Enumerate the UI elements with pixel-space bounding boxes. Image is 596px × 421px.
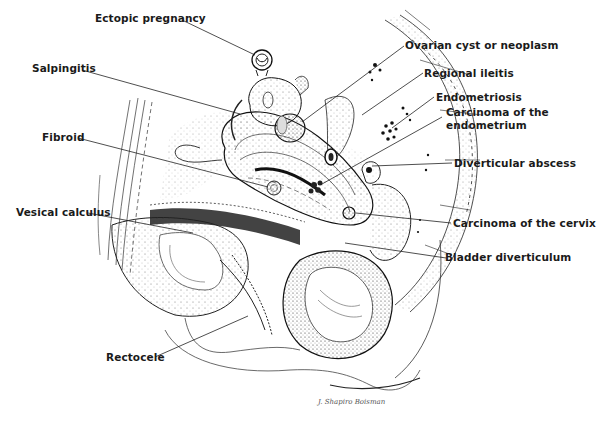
label-carcinoma-endometrium-line2: endometrium — [446, 119, 527, 131]
label-carcinoma-endometrium-line1: Carcinoma of the — [446, 106, 549, 118]
label-ectopic-pregnancy: Ectopic pregnancy — [95, 12, 206, 24]
rectum — [283, 251, 392, 359]
leader-salpingitis — [82, 70, 240, 114]
label-vesical-calculus: Vesical calculus — [16, 206, 111, 218]
label-fibroid: Fibroid — [42, 131, 85, 143]
label-regional-ileitis: Regional ileitis — [424, 67, 514, 79]
label-rectocele: Rectocele — [106, 351, 165, 363]
leader-endometriosis — [392, 97, 434, 128]
label-salpingitis: Salpingitis — [32, 62, 96, 74]
cervical-carcinoma-mass — [343, 207, 355, 219]
label-bladder-diverticulum: Bladder diverticulum — [445, 251, 571, 263]
endometriosis-implants — [381, 121, 397, 141]
leader-ectopic-pregnancy — [182, 20, 255, 55]
bladder — [112, 217, 248, 316]
ectopic-pregnancy-mass — [252, 50, 272, 76]
label-diverticular-abscess: Diverticular abscess — [454, 157, 576, 169]
fibroid-mass — [267, 181, 281, 195]
artist-signature: J. Shapiro Boisman — [318, 398, 385, 406]
label-carcinoma-cervix: Carcinoma of the cervix — [453, 217, 596, 229]
label-endometriosis: Endometriosis — [436, 91, 522, 103]
label-ovarian-cyst: Ovarian cyst or neoplasm — [405, 39, 559, 51]
leader-diverticular-abscess — [372, 163, 452, 166]
